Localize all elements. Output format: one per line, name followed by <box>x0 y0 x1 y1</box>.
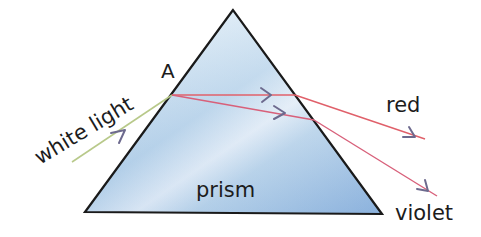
incident-arrow-icon <box>111 130 125 143</box>
prism-diagram: white light A prism red violet <box>0 0 481 237</box>
violet-label: violet <box>395 201 453 225</box>
point-a-label: A <box>161 59 175 83</box>
prism-label: prism <box>196 178 255 202</box>
red-label: red <box>386 93 420 117</box>
